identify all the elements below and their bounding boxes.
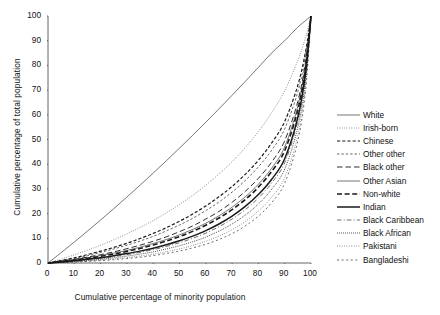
- legend-item-black-other[interactable]: Black other: [337, 161, 440, 174]
- x-tick-label: 70: [219, 268, 243, 278]
- legend-item-label: Other other: [363, 149, 405, 159]
- legend-item-label: Non-white: [363, 189, 400, 199]
- legend-item-label: White: [363, 110, 384, 120]
- legend-item-pakistani[interactable]: Pakistani: [337, 240, 440, 253]
- legend-item-indian[interactable]: Indian: [337, 200, 440, 213]
- legend-line-swatch: [337, 136, 360, 146]
- legend-item-label: Chinese: [363, 136, 393, 146]
- x-tick-label: 30: [114, 268, 138, 278]
- legend-item-label: Black other: [363, 162, 405, 172]
- legend-item-irish-born[interactable]: Irish-born: [337, 121, 440, 134]
- chart-figure: Cumulative percentage of minority popula…: [0, 0, 440, 315]
- legend-item-other-asian[interactable]: Other Asian: [337, 174, 440, 187]
- x-tick-label: 10: [61, 268, 85, 278]
- legend-line-swatch: [337, 228, 360, 238]
- legend-line-swatch: [337, 176, 360, 186]
- y-tick-label: 10: [19, 232, 41, 242]
- x-tick-label: 20: [88, 268, 112, 278]
- legend-line-swatch: [337, 255, 360, 265]
- legend-item-black-african[interactable]: Black African: [337, 227, 440, 240]
- x-tick-label: 100: [298, 268, 322, 278]
- y-tick-label: 40: [19, 158, 41, 168]
- legend-line-swatch: [337, 241, 360, 251]
- y-tick-label: 90: [19, 35, 41, 45]
- legend-item-label: Other Asian: [363, 176, 406, 186]
- legend-line-swatch: [337, 110, 360, 120]
- y-tick-label: 0: [19, 257, 41, 267]
- legend-item-label: Bangladeshi: [363, 255, 409, 265]
- legend-item-label: Irish-born: [363, 123, 398, 133]
- y-tick-label: 30: [19, 183, 41, 193]
- x-tick-label: 80: [245, 268, 269, 278]
- legend-line-swatch: [337, 149, 360, 159]
- legend-item-label: Black African: [363, 228, 411, 238]
- legend-item-non-white[interactable]: Non-white: [337, 187, 440, 200]
- legend-item-label: Pakistani: [363, 241, 397, 251]
- plot-area: [47, 15, 310, 262]
- x-tick-label: 60: [193, 268, 217, 278]
- x-tick-label: 0: [35, 268, 59, 278]
- y-tick-label: 20: [19, 208, 41, 218]
- legend-line-swatch: [337, 162, 360, 172]
- y-tick-label: 70: [19, 84, 41, 94]
- legend-item-chinese[interactable]: Chinese: [337, 134, 440, 147]
- y-tick-label: 80: [19, 59, 41, 69]
- legend-line-swatch: [337, 202, 360, 212]
- legend-line-swatch: [337, 123, 360, 133]
- x-tick-label: 90: [272, 268, 296, 278]
- legend-item-bangladeshi[interactable]: Bangladeshi: [337, 253, 440, 266]
- series-line-white: [48, 16, 311, 263]
- legend-item-label: Indian: [363, 202, 386, 212]
- legend-item-white[interactable]: White: [337, 108, 440, 121]
- legend-line-swatch: [337, 189, 360, 199]
- y-tick-label: 100: [19, 10, 41, 20]
- y-tick-label: 50: [19, 134, 41, 144]
- x-tick-label: 50: [167, 268, 191, 278]
- legend-line-swatch: [337, 215, 360, 225]
- x-tick-label: 40: [140, 268, 164, 278]
- legend-item-other-other[interactable]: Other other: [337, 148, 440, 161]
- legend: WhiteIrish-bornChineseOther otherBlack o…: [337, 108, 440, 266]
- y-tick-label: 60: [19, 109, 41, 119]
- chart-canvas: [47, 15, 312, 264]
- legend-item-black-caribbean[interactable]: Black Caribbean: [337, 214, 440, 227]
- legend-item-label: Black Caribbean: [363, 215, 424, 225]
- x-axis-title: Cumulative percentage of minority popula…: [0, 292, 320, 302]
